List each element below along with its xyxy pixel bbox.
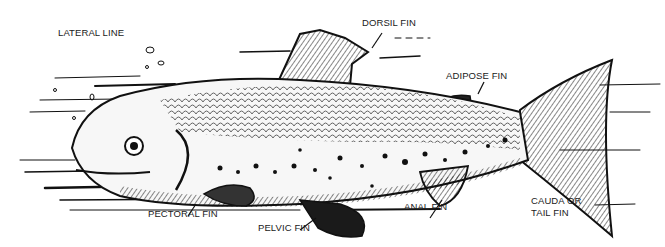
- label-caudal-fin-line1: CAUDA OR: [531, 195, 581, 206]
- dorsal-fin: [278, 30, 368, 86]
- label-dorsal-fin: DORSIL FIN: [362, 17, 416, 28]
- label-pectoral-fin: PECTORAL FIN: [148, 208, 218, 219]
- label-pelvic-fin: PELVIC FIN: [258, 222, 310, 233]
- label-anal-fin: ANAL FIN: [404, 201, 447, 212]
- label-caudal-fin-line2: TAIL FIN: [531, 207, 569, 218]
- anal-fin-shape: [420, 166, 468, 206]
- label-lateral-line: LATERAL LINE: [58, 27, 124, 38]
- fish-diagram: LATERAL LINE DORSIL FIN ADIPOSE FIN CAUD…: [0, 0, 665, 247]
- label-adipose-fin: ADIPOSE FIN: [446, 70, 507, 81]
